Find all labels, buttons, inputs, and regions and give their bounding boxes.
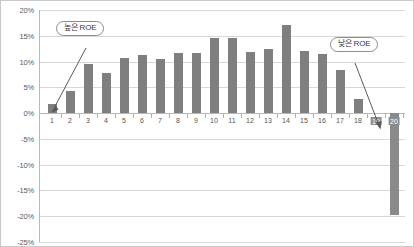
chart-screenshot: 20%15%10%5%0%-5%-10%-15%-20%-25% 1234567… [0, 0, 414, 247]
leader-line-low-roe [355, 63, 380, 128]
annotation-low-roe: 낮은 ROE [330, 37, 378, 52]
annotation-high-roe: 높은 ROE [56, 21, 104, 36]
arrowhead-low-roe [376, 121, 382, 130]
annotation-high-roe-label: 높은 ROE [64, 23, 96, 32]
frame-left [0, 0, 1, 247]
leader-line-high-roe [52, 48, 86, 112]
frame-top [0, 0, 414, 1]
annotation-low-roe-label: 낮은 ROE [338, 39, 370, 48]
